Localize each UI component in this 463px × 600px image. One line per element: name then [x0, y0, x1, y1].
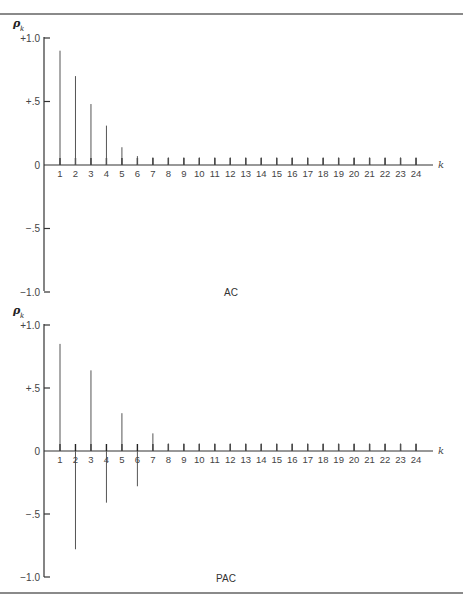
y-tick-label: −.5 [26, 509, 41, 520]
x-tick-label: 15 [271, 454, 282, 465]
x-tick-label: 11 [210, 454, 220, 465]
x-tick-label: 14 [256, 454, 267, 465]
x-tick-label: 18 [318, 454, 329, 465]
x-tick-label: 22 [380, 454, 391, 465]
x-tick-label: 6 [135, 454, 140, 465]
y-tick-label: −1.0 [20, 572, 40, 583]
x-tick-label: 9 [181, 454, 186, 465]
x-tick-label: 8 [166, 454, 171, 465]
x-tick-label: 10 [194, 454, 205, 465]
x-tick-label: 13 [240, 454, 251, 465]
x-tick-label: 21 [364, 454, 375, 465]
chart-title: PAC [216, 573, 236, 584]
x-tick-label: 23 [395, 454, 406, 465]
y-tick-label: 0 [34, 446, 40, 457]
x-tick-label: 16 [287, 454, 298, 465]
y-tick-label: +.5 [26, 383, 41, 394]
x-tick-label: 7 [150, 454, 155, 465]
x-tick-label: 3 [88, 454, 93, 465]
pac-chart: +1.0+.50−.5−1.0kρk1234567891011121314151… [0, 0, 463, 600]
y-tick-label: +1.0 [20, 320, 40, 331]
x-tick-label: 20 [349, 454, 360, 465]
x-axis-label: k [438, 445, 444, 456]
x-tick-label: 5 [119, 454, 124, 465]
x-tick-label: 2 [73, 454, 78, 465]
x-tick-label: 17 [302, 454, 313, 465]
x-tick-label: 4 [104, 454, 109, 465]
x-tick-label: 1 [57, 454, 62, 465]
x-tick-label: 19 [333, 454, 344, 465]
y-axis-subscript: k [20, 312, 24, 320]
x-tick-label: 24 [411, 454, 422, 465]
x-tick-label: 12 [225, 454, 236, 465]
